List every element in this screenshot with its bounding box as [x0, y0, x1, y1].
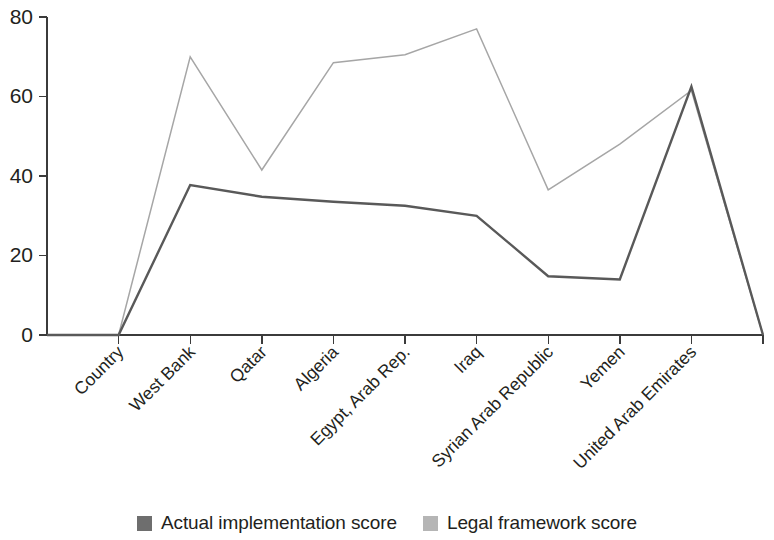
chart-plot-area: 806040200 CountryWest BankQatarAlgeriaEg…: [0, 0, 774, 540]
x-axis-tick-label: Iraq: [450, 342, 485, 377]
x-axis-tick-label: United Arab Emirates: [569, 342, 700, 473]
dark-gray-swatch: [137, 516, 152, 531]
y-axis-tick-label: 20: [10, 243, 33, 266]
legend-item-actual-implementation-score: Actual implementation score: [137, 512, 397, 534]
x-axis-tick-label: Syrian Arab Republic: [427, 342, 557, 472]
light-gray-swatch: [423, 516, 438, 531]
chart-legend: Actual implementation score Legal framew…: [0, 512, 774, 534]
x-axis-tick-label: Qatar: [226, 342, 271, 387]
x-axis-tick-label: Algeria: [290, 342, 343, 395]
series-lines: [47, 29, 763, 335]
y-axis-tick-label: 0: [21, 323, 33, 346]
y-axis-tick-label: 60: [10, 84, 33, 107]
y-axis-tick-label: 40: [10, 164, 33, 187]
x-axis-ticks: [119, 335, 763, 344]
legend-label-legal-framework-score: Legal framework score: [447, 512, 637, 534]
x-axis-tick-label: Country: [70, 342, 128, 400]
line-chart: 806040200 CountryWest BankQatarAlgeriaEg…: [0, 0, 774, 540]
x-axis-tick-label: West Bank: [125, 342, 199, 416]
x-axis-tick-label: Yemen: [576, 342, 628, 394]
y-axis-ticks: [39, 17, 47, 335]
series-line-actual-implementation-score: [47, 87, 763, 335]
x-axis-labels: CountryWest BankQatarAlgeriaEgypt, Arab …: [70, 342, 700, 473]
y-axis-labels: 806040200: [10, 5, 33, 346]
y-axis-tick-label: 80: [10, 5, 33, 28]
legend-item-legal-framework-score: Legal framework score: [423, 512, 637, 534]
legend-label-actual-implementation-score: Actual implementation score: [161, 512, 397, 534]
